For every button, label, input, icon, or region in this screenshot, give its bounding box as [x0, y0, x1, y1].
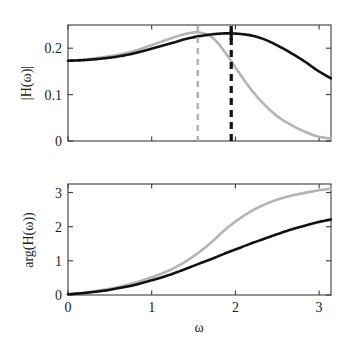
phase-ylabel: arg(H(ω)) — [21, 212, 37, 268]
magnitude-ylabel: |H(ω)| — [19, 66, 35, 100]
phase-xtick-label-3: 3 — [316, 300, 323, 315]
phase-plot: 0 1 2 3 0 1 2 3 arg(H(ω)) ω — [21, 184, 331, 335]
figure-container: 0 0.1 0.2 |H(ω)| — [0, 0, 352, 344]
phase-ytick-label-3: 3 — [55, 186, 62, 201]
magnitude-y-ticks — [68, 48, 331, 141]
phase-ytick-label-1: 1 — [55, 254, 62, 269]
figure-svg: 0 0.1 0.2 |H(ω)| — [0, 0, 352, 344]
magnitude-ytick-label-0: 0 — [55, 134, 62, 149]
phase-xlabel: ω — [194, 320, 203, 335]
phase-y-ticks — [68, 193, 331, 296]
magnitude-ytick-label-1: 0.1 — [45, 88, 63, 103]
magnitude-axes-box — [68, 25, 331, 141]
phase-ytick-label-0: 0 — [55, 288, 62, 303]
phase-series-black — [68, 220, 331, 295]
magnitude-x-ticks — [68, 25, 319, 141]
phase-axes-box — [68, 184, 331, 295]
phase-ytick-label-2: 2 — [55, 220, 62, 235]
phase-x-ticks — [68, 184, 319, 295]
phase-series-gray — [68, 189, 331, 295]
phase-xtick-label-0: 0 — [65, 300, 72, 315]
phase-xtick-label-1: 1 — [148, 300, 155, 315]
phase-xtick-label-2: 2 — [232, 300, 239, 315]
magnitude-plot: 0 0.1 0.2 |H(ω)| — [19, 25, 331, 149]
magnitude-ytick-label-2: 0.2 — [45, 41, 63, 56]
magnitude-series-gray — [68, 32, 331, 138]
